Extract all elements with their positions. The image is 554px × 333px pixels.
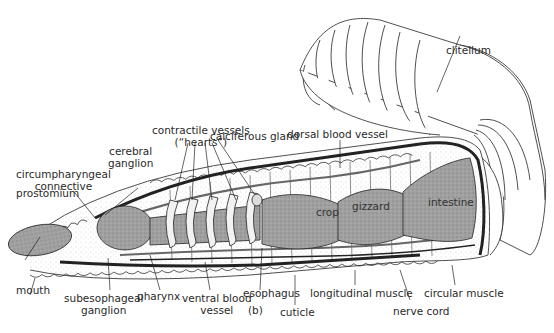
label-circular-muscle: circular muscle — [424, 287, 504, 299]
label-gizzard: gizzard — [352, 200, 390, 212]
earthworm-diagram: crop gizzard intestine clitellum calcife… — [0, 0, 554, 333]
label-mouth: mouth — [16, 284, 50, 296]
label-dorsal-blood-vessel: dorsal blood vessel — [287, 128, 388, 140]
label-cuticle: cuticle — [280, 306, 315, 318]
label-subesophageal-ganglion: subesophageal ganglion — [64, 292, 143, 316]
label-crop: crop — [316, 206, 339, 218]
label-cerebral-ganglion: cerebral ganglion — [108, 145, 153, 169]
gizzard-shape — [338, 189, 405, 244]
panel-label: (b) — [248, 304, 263, 316]
label-nerve-cord: nerve cord — [393, 305, 449, 317]
calciferous-gland-shape — [252, 194, 262, 206]
label-clitellum: clitellum — [446, 44, 491, 56]
label-longitudinal-muscle: longitudinal muscle — [310, 287, 413, 299]
crop-shape — [262, 195, 340, 249]
label-esophagus: esophagus — [243, 287, 300, 299]
label-pharynx: pharynx — [137, 290, 180, 302]
label-contractile-vessels: contractile vessels (“hearts”) — [152, 124, 250, 148]
pharynx-shape — [97, 206, 153, 250]
label-ventral-blood-vessel: ventral blood vessel — [182, 292, 252, 316]
label-prostomium: prostomium — [16, 187, 79, 199]
label-intestine: intestine — [428, 196, 474, 208]
